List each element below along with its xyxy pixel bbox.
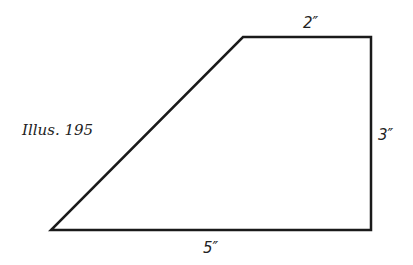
trapezoid-diagram: 2″ 3″ 5″ Illus. 195 [0,0,413,265]
right-side-label: 3″ [378,126,394,144]
top-side-label: 2″ [303,14,319,32]
illustration-caption: Illus. 195 [21,121,93,139]
bottom-side-label: 5″ [203,239,219,257]
trapezoid-shape [51,37,371,230]
